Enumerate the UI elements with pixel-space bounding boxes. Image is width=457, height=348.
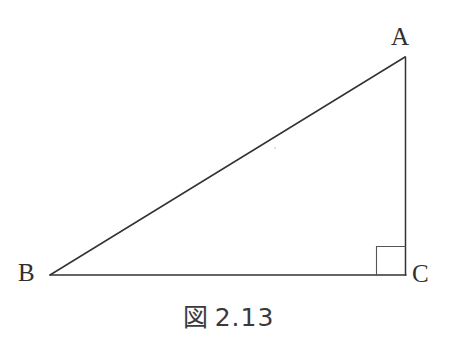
triangle-edge-ab (50, 57, 405, 275)
figure-caption-kanji: 図 (183, 303, 209, 332)
figure-caption-number: 2.13 (215, 303, 275, 332)
scan-artifact-dot (274, 147, 276, 149)
triangle-diagram (0, 0, 457, 348)
figure-caption: 図2.13 (0, 297, 457, 333)
vertex-label-b: B (18, 260, 35, 285)
vertex-label-c: C (412, 261, 429, 286)
vertex-label-a: A (391, 24, 409, 49)
right-angle-marker-icon (377, 247, 406, 276)
figure-container: A B C 図2.13 (0, 0, 457, 348)
